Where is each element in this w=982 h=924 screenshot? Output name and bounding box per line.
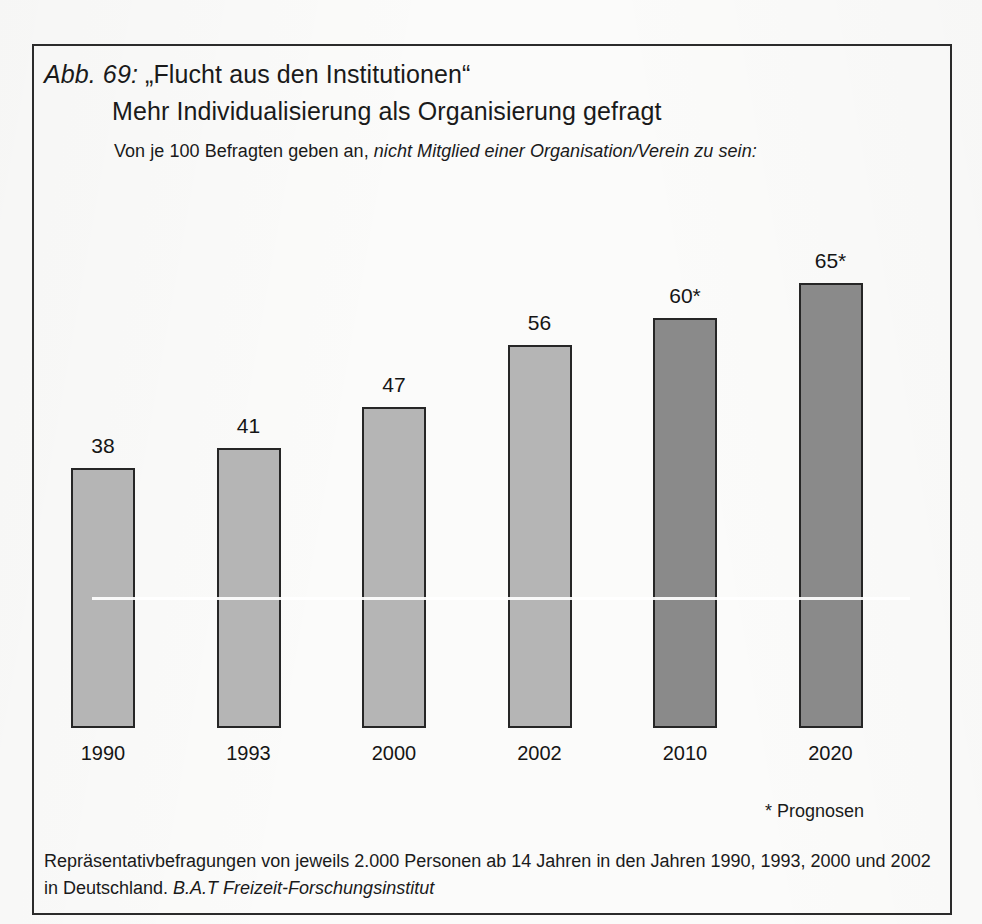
bar-group: 60*2010: [653, 318, 717, 728]
chart-plot-area: 38199041199347200056200260*201065*2020: [32, 44, 952, 915]
bar-value-label: 60*: [669, 285, 701, 306]
bar-series: 38199041199347200056200260*201065*2020: [32, 44, 952, 915]
source-footnote: Repräsentativbefragungen von jeweils 2.0…: [44, 848, 934, 902]
bar-group: 411993: [217, 448, 281, 728]
source-institute: B.A.T Freizeit-Forschungsinstitut: [173, 878, 434, 898]
bar-value-label: 65*: [815, 250, 847, 271]
bar-group: 65*2020: [799, 283, 863, 728]
bar-2000[interactable]: [362, 407, 426, 728]
bar-value-label: 41: [237, 415, 260, 436]
category-label-2002: 2002: [517, 743, 562, 763]
category-label-1993: 1993: [226, 743, 271, 763]
prognosen-footnote: * Prognosen: [765, 800, 864, 822]
bar-value-label: 38: [91, 435, 114, 456]
category-label-2020: 2020: [808, 743, 853, 763]
bar-group: 562002: [508, 345, 572, 728]
bar-value-label: 47: [382, 374, 405, 395]
bar-group: 472000: [362, 407, 426, 728]
category-label-2010: 2010: [663, 743, 708, 763]
bar-1990[interactable]: [71, 468, 135, 728]
category-label-1990: 1990: [81, 743, 126, 763]
bar-1993[interactable]: [217, 448, 281, 728]
bar-group: 381990: [71, 468, 135, 728]
bar-2010[interactable]: [653, 318, 717, 728]
bar-value-label: 56: [528, 312, 551, 333]
bar-2002[interactable]: [508, 345, 572, 728]
bar-2020[interactable]: [799, 283, 863, 728]
category-label-2000: 2000: [372, 743, 417, 763]
